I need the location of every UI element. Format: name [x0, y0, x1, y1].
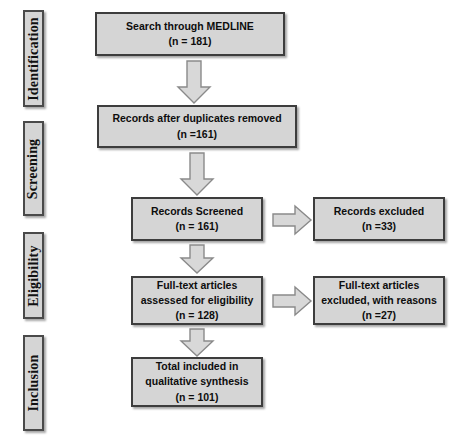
node-fulltext-excluded-line-1: Full-text articles [339, 278, 420, 293]
stage-label-screening-text: Screening [26, 138, 42, 199]
node-records-screened: Records Screened (n = 161) [131, 197, 263, 241]
node-total-included-line-2: qualitative synthesis [145, 374, 248, 389]
node-total-included: Total included in qualitative synthesis … [131, 357, 263, 407]
stage-label-eligibility-text: Eligibility [26, 245, 42, 306]
stage-label-inclusion-text: Inclusion [26, 354, 42, 411]
node-fulltext-assessed-line-1: Full-text articles [157, 278, 238, 293]
node-records-excluded-line-1: Records excluded [334, 204, 424, 219]
node-records-screened-line-1: Records Screened [151, 204, 243, 219]
node-records-after-duplicates-removed: Records after duplicates removed (n =161… [97, 105, 297, 148]
node-records-screened-count: (n = 161) [176, 219, 219, 234]
node-search-medline-count: (n = 181) [169, 34, 212, 49]
arrow-dedup-to-screened [180, 152, 214, 196]
node-search-medline: Search through MEDLINE (n = 181) [95, 12, 285, 56]
stage-label-eligibility: Eligibility [23, 232, 44, 319]
node-records-after-duplicates-removed-line-1: Records after duplicates removed [112, 111, 281, 126]
node-total-included-line-1: Total included in [156, 359, 239, 374]
node-fulltext-excluded-count: (n =27) [362, 308, 396, 323]
stage-label-screening: Screening [23, 121, 44, 216]
stage-label-identification: Identification [23, 10, 44, 107]
node-records-after-duplicates-removed-count: (n =161) [177, 127, 217, 142]
node-records-excluded-count: (n =33) [362, 219, 396, 234]
arrow-fulltext-to-excluded [272, 286, 312, 316]
node-total-included-count: (n = 101) [176, 390, 219, 405]
node-records-excluded: Records excluded (n =33) [313, 197, 445, 241]
node-fulltext-assessed: Full-text articles assessed for eligibil… [131, 276, 263, 325]
node-fulltext-assessed-line-2: assessed for eligibility [141, 293, 254, 308]
arrow-fulltext-to-included [180, 328, 214, 357]
arrow-screened-to-fulltext [180, 244, 214, 274]
arrow-search-to-dedup [177, 60, 211, 104]
stage-label-inclusion: Inclusion [23, 335, 44, 431]
node-fulltext-assessed-count: (n = 128) [176, 308, 219, 323]
prisma-flow-diagram: Identification Screening Eligibility Inc… [0, 0, 460, 447]
node-fulltext-excluded-line-2: excluded, with reasons [321, 293, 437, 308]
arrow-screened-to-excluded [272, 205, 312, 235]
node-search-medline-line-1: Search through MEDLINE [126, 19, 254, 34]
node-fulltext-excluded: Full-text articles excluded, with reason… [313, 276, 445, 325]
stage-label-identification-text: Identification [26, 17, 42, 101]
